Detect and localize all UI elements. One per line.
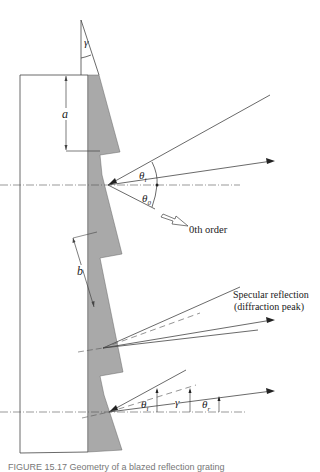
facet-b-label: b [77,265,83,277]
period-a-label: a [62,108,68,120]
gamma-label-top: γ [84,37,88,48]
theta-r-label: θr [202,399,210,413]
theta-0-label: θ0 [142,193,151,207]
gamma-label-lower: γ [175,397,179,408]
theta-i-lower-label: θi [141,399,148,413]
figure-caption: FIGURE 15.17 Geometry of a blazed reflec… [8,462,225,472]
grating-profile [88,75,123,452]
specular-reflection-label: Specular reflection [233,290,309,300]
diffraction-peak-label: (diffraction peak) [234,302,304,312]
zeroth-order-label: 0th order [189,225,227,236]
theta-i-upper-label: θi [139,170,146,184]
